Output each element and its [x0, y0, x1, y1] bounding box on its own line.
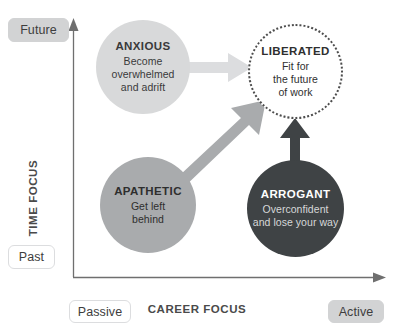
x-axis — [73, 273, 386, 283]
quadrant-arrogant[interactable]: ARROGANT Overconfident and lose your way — [247, 160, 344, 257]
quadrant-apathetic-desc-line: behind — [131, 213, 165, 226]
y-axis — [69, 18, 79, 277]
arrow-anxious-to-liberated — [188, 53, 252, 82]
quadrant-liberated-title: LIBERATED — [261, 45, 330, 58]
quadrant-arrogant-desc-line: Overconfident — [253, 203, 338, 216]
axis-label-future: Future — [8, 18, 69, 42]
quadrant-arrogant-desc: Overconfident and lose your way — [253, 203, 338, 229]
quadrant-anxious-desc-line: overwhelmed — [112, 68, 175, 81]
quadrant-liberated[interactable]: LIBERATED Fit for the future of work — [248, 24, 343, 119]
quadrant-liberated-desc-line: Fit for — [273, 60, 318, 73]
quadrant-apathetic-desc: Get left behind — [131, 200, 165, 226]
quadrant-apathetic[interactable]: APATHETIC Get left behind — [100, 157, 196, 253]
quadrant-liberated-desc: Fit for the future of work — [273, 60, 318, 98]
career-time-focus-matrix: ANXIOUS Become overwhelmed and adrift LI… — [0, 0, 394, 330]
axis-label-past: Past — [8, 245, 55, 269]
quadrant-arrogant-desc-line: and lose your way — [253, 216, 338, 229]
quadrant-liberated-desc-line: of work — [273, 86, 318, 99]
quadrant-arrogant-title: ARROGANT — [261, 188, 331, 201]
quadrant-anxious-desc-line: and adrift — [112, 81, 175, 94]
x-axis-title: CAREER FOCUS — [0, 303, 394, 315]
y-axis-title: TIME FOCUS — [27, 156, 39, 240]
quadrant-anxious-title: ANXIOUS — [115, 40, 170, 53]
quadrant-apathetic-title: APATHETIC — [114, 185, 182, 198]
quadrant-anxious-desc-line: Become — [112, 55, 175, 68]
quadrant-anxious[interactable]: ANXIOUS Become overwhelmed and adrift — [96, 20, 190, 114]
quadrant-apathetic-desc-line: Get left — [131, 200, 165, 213]
quadrant-anxious-desc: Become overwhelmed and adrift — [112, 55, 175, 93]
quadrant-liberated-desc-line: the future — [273, 73, 318, 86]
